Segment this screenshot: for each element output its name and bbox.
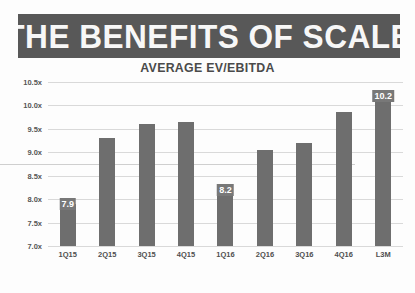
bar[interactable]: 7.9 [60, 204, 76, 246]
y-axis-tick-label: 9.0x [27, 148, 42, 157]
y-axis-tick-label: 7.5x [27, 218, 42, 227]
chart-subtitle: AVERAGE EV/EBITDA [10, 60, 404, 75]
x-axis-tick-label: 2Q15 [87, 250, 126, 259]
bar[interactable] [99, 138, 115, 246]
y-axis-tick-label: 8.5x [27, 171, 42, 180]
x-axis-tick-label: L3M [364, 250, 403, 259]
x-axis-tick-label: 3Q16 [285, 250, 324, 259]
x-axis-tick-label: 2Q16 [245, 250, 284, 259]
x-axis-tick-label: 3Q15 [127, 250, 166, 259]
gridline: 7.0x [48, 246, 403, 247]
bar[interactable] [139, 124, 155, 246]
bar-slot [245, 82, 284, 246]
bar[interactable] [336, 112, 352, 246]
bar-slot [87, 82, 126, 246]
bar-slot: 7.9 [48, 82, 87, 246]
x-axis-labels: 1Q152Q153Q154Q151Q162Q163Q164Q16L3M [48, 250, 403, 259]
bar-value-label: 8.2 [217, 184, 234, 196]
y-axis-tick-label: 9.5x [27, 124, 42, 133]
bar-value-label: 7.9 [59, 198, 76, 210]
x-axis-tick-label: 4Q15 [166, 250, 205, 259]
y-axis-tick-label: 10.0x [23, 101, 42, 110]
x-axis-tick-label: 1Q16 [206, 250, 245, 259]
page-title: THE BENEFITS OF SCALE [18, 19, 400, 53]
y-axis-tick-label: 7.0x [27, 242, 42, 251]
bar-slot: 10.2 [364, 82, 403, 246]
bar-value-label: 10.2 [372, 90, 394, 102]
y-axis-tick-label: 10.5x [23, 78, 42, 87]
x-axis-tick-label: 1Q15 [48, 250, 87, 259]
bar[interactable] [296, 143, 312, 246]
bar-slot [324, 82, 363, 246]
bar[interactable] [178, 122, 194, 246]
bar[interactable] [257, 150, 273, 246]
title-banner: THE BENEFITS OF SCALE [18, 14, 400, 58]
bar-slot [285, 82, 324, 246]
bar-slot: 8.2 [206, 82, 245, 246]
bar[interactable]: 10.2 [375, 96, 391, 246]
bar-slot [127, 82, 166, 246]
bar-slot [166, 82, 205, 246]
bar-series: 7.98.210.2 [48, 82, 403, 246]
x-axis-tick-label: 4Q16 [324, 250, 363, 259]
y-axis-tick-label: 8.0x [27, 195, 42, 204]
bar[interactable]: 8.2 [217, 190, 233, 246]
chart-page: THE BENEFITS OF SCALE AVERAGE EV/EBITDA … [0, 0, 415, 293]
